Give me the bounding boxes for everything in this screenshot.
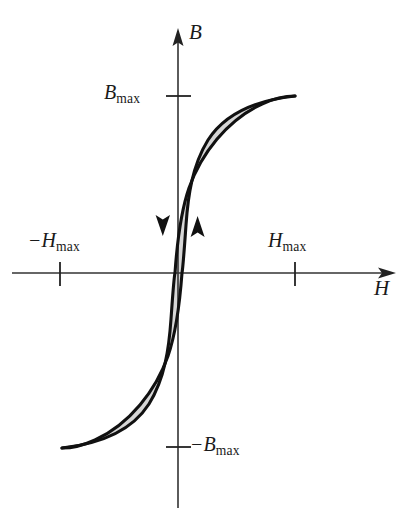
y-tick-label-neg-b-max: −Bmax <box>190 434 240 454</box>
x-tick-label-neg-h-max: −Hmax <box>28 230 80 250</box>
y-tick-label-b-max: Bmax <box>104 82 140 102</box>
hysteresis-figure: Bmax −Bmax −Hmax Hmax B H <box>0 0 412 523</box>
down-arrow-icon <box>156 215 170 236</box>
up-arrow-icon <box>191 216 205 237</box>
y-axis-label: B <box>189 22 202 43</box>
x-tick-label-h-max: Hmax <box>268 230 306 250</box>
x-axis-label: H <box>374 278 389 299</box>
